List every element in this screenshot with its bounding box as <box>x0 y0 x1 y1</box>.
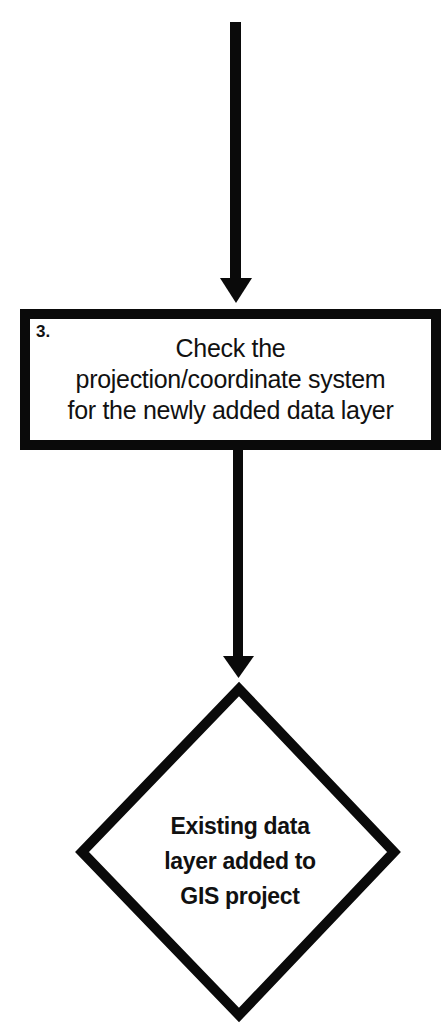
process-step-line: projection/coordinate system <box>30 364 431 395</box>
process-step-line: for the newly added data layer <box>30 395 431 426</box>
arrow-down-icon <box>220 22 252 303</box>
arrow-down-icon <box>223 450 254 678</box>
decision-line: GIS project <box>100 879 380 914</box>
decision-line: Existing data <box>100 809 380 844</box>
process-step-line: Check the <box>30 333 431 364</box>
decision-line: layer added to <box>100 844 380 879</box>
process-step-text: Check the projection/coordinate system f… <box>30 333 431 426</box>
flowchart-canvas: 3. Check the projection/coordinate syste… <box>0 0 444 1036</box>
process-step-box: 3. Check the projection/coordinate syste… <box>20 309 441 450</box>
decision-text: Existing data layer added to GIS project <box>100 809 380 914</box>
